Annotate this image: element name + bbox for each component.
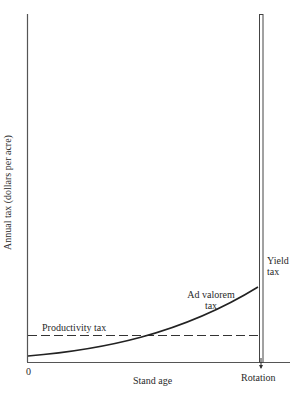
ad-valorem-tax-label: Ad valorem tax [178, 289, 244, 311]
yield-label-line2: tax [267, 266, 289, 277]
y-axis-label: Annual tax (dollars per acre) [2, 135, 13, 250]
ad-valorem-label-line2: tax [178, 300, 244, 311]
ad-valorem-label-line1: Ad valorem [178, 289, 244, 300]
yield-tax-label: Yield tax [267, 255, 289, 277]
yield-label-line1: Yield [267, 255, 289, 266]
rotation-label: Rotation [241, 372, 275, 383]
x-axis-label: Stand age [133, 375, 172, 386]
yield-tax-bar [260, 15, 264, 363]
rotation-arrow-icon [259, 365, 263, 369]
origin-label: 0 [26, 366, 31, 377]
productivity-tax-label: Productivity tax [42, 322, 106, 333]
chart-canvas [0, 0, 307, 402]
